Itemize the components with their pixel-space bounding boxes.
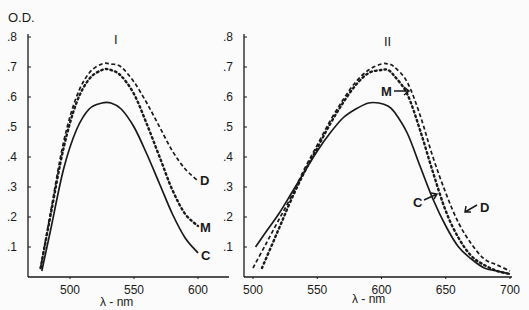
y-tick-label: .1 (223, 240, 233, 254)
panel-title: I (114, 32, 118, 47)
x-tick-label: 500 (243, 283, 263, 297)
label-D: D (200, 173, 209, 188)
x-ticks: 500550600650700 (243, 277, 520, 297)
label-C: C (413, 195, 423, 210)
x-tick-label: 550 (124, 283, 144, 297)
y-tick-label: .2 (223, 210, 233, 224)
curves (41, 63, 198, 271)
x-tick-label: 600 (371, 283, 391, 297)
curve-M (262, 69, 510, 274)
y-tick-label: .8 (7, 30, 17, 44)
panel-II: II λ - nm .1.2.3.4.5.6.7.8 5005506006507… (223, 30, 520, 306)
panel-title: II (384, 34, 391, 49)
x-axis-label: λ - nm (100, 295, 133, 309)
x-tick-label: 700 (500, 283, 520, 297)
arrow-D-icon (465, 205, 477, 212)
label-M: M (381, 84, 392, 99)
curve-C (256, 102, 510, 274)
y-tick-label: .7 (7, 60, 17, 74)
y-tick-label: .4 (223, 150, 233, 164)
y-tick-label: .5 (7, 120, 17, 134)
y-tick-label: .8 (223, 30, 233, 44)
curve-C (42, 102, 198, 271)
label-C: C (201, 248, 211, 263)
label-D: D (480, 200, 489, 215)
x-tick-label: 600 (188, 283, 208, 297)
y-tick-label: .7 (223, 60, 233, 74)
y-tick-label: .5 (223, 120, 233, 134)
y-tick-label: .3 (7, 180, 17, 194)
x-tick-label: 550 (307, 283, 327, 297)
y-axis-label: O.D. (8, 10, 35, 25)
y-tick-label: .6 (223, 90, 233, 104)
y-tick-label: .3 (223, 180, 233, 194)
x-tick-label: 650 (436, 283, 456, 297)
y-tick-label: .4 (7, 150, 17, 164)
x-ticks: 500550600 (60, 277, 208, 297)
y-tick-label: .1 (7, 240, 17, 254)
figure: O.D. I λ - nm .1.2.3.4.5.6.7.8 500550600… (0, 0, 529, 310)
y-tick-label: .2 (7, 210, 17, 224)
panel-I: I λ - nm .1.2.3.4.5.6.7.8 500550600 D M … (7, 30, 229, 309)
y-tick-label: .6 (7, 90, 17, 104)
x-tick-label: 500 (60, 283, 80, 297)
label-M: M (200, 220, 211, 235)
